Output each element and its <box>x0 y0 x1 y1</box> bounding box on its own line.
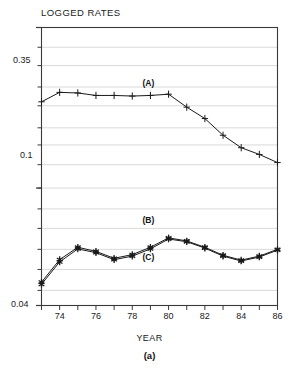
series-label-a: (A) <box>142 78 154 88</box>
axis-frame <box>42 28 278 306</box>
series-label-c: (C) <box>142 252 154 262</box>
x-axis-tick-label-86: 86 <box>266 311 290 321</box>
x-axis-title: YEAR <box>0 333 299 343</box>
y-axis-label-0-04: 0.04 <box>11 299 29 309</box>
y-axis-label-0-35: 0.35 <box>13 55 31 65</box>
x-axis-ticks <box>42 306 278 311</box>
x-axis-tick-label-78: 78 <box>120 311 144 321</box>
y-axis-ticks <box>36 28 42 306</box>
y-axis-label-0-1: 0.1 <box>20 150 33 160</box>
figure-caption: (a) <box>0 350 299 361</box>
x-axis-tick-label-74: 74 <box>48 311 72 321</box>
grid-lines <box>42 28 278 291</box>
x-axis-tick-label-84: 84 <box>229 311 253 321</box>
chart-plot-area <box>0 0 299 375</box>
x-axis-tick-label-76: 76 <box>84 311 108 321</box>
x-axis-tick-label-82: 82 <box>193 311 217 321</box>
series-label-b: (B) <box>142 215 154 225</box>
x-axis-tick-label-80: 80 <box>157 311 181 321</box>
